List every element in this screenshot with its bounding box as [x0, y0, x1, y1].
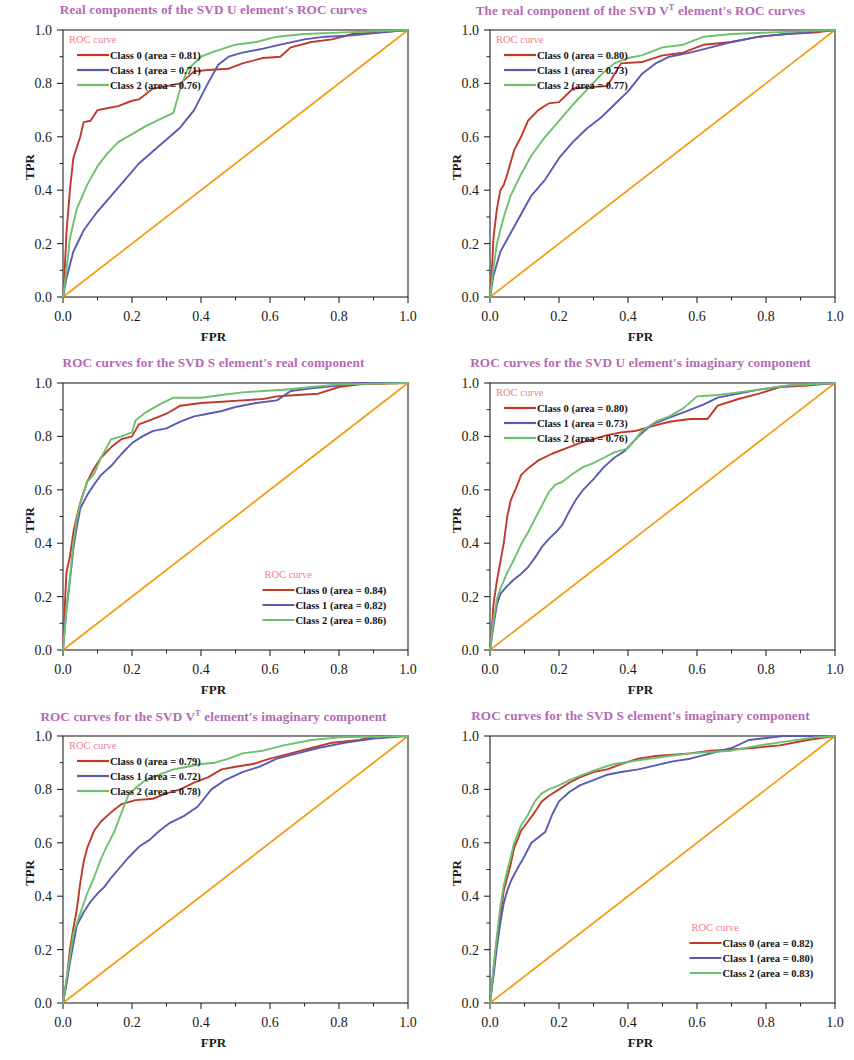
x-tick-label: 0.4 — [192, 1015, 210, 1030]
x-tick-label: 0.2 — [550, 1015, 568, 1030]
y-tick-label: 0.4 — [35, 889, 53, 904]
x-tick-label: 1.0 — [399, 662, 417, 677]
y-tick-label: 1.0 — [35, 729, 53, 744]
y-tick-label: 0.8 — [462, 429, 480, 444]
y-tick-label: 0.6 — [35, 483, 53, 498]
x-tick-label: 0.0 — [54, 1015, 72, 1030]
legend-label-class-1: Class 1 (area = 0.71) — [110, 65, 201, 77]
y-tick-label: 0.4 — [35, 536, 53, 551]
y-tick-label: 0.4 — [462, 889, 480, 904]
legend-label-class-1: Class 1 (area = 0.72) — [110, 771, 201, 783]
x-tick-label: 1.0 — [826, 309, 844, 324]
legend-label-class-2: Class 2 (area = 0.76) — [110, 80, 201, 92]
legend-label-class-0: Class 0 (area = 0.80) — [537, 50, 628, 62]
y-tick-label: 0.6 — [462, 130, 480, 145]
x-tick-label: 0.2 — [550, 662, 568, 677]
y-tick-label: 0.2 — [462, 590, 480, 605]
y-tick-label: 1.0 — [462, 729, 480, 744]
legend-title: ROC curve — [69, 34, 117, 45]
legend-label-class-0: Class 0 (area = 0.84) — [295, 585, 386, 597]
x-tick-label: 0.8 — [330, 662, 348, 677]
y-tick-label: 0.0 — [35, 996, 53, 1011]
x-tick-label: 0.6 — [688, 309, 706, 324]
y-axis-label: TPR — [22, 154, 38, 180]
x-axis-label: FPR — [0, 682, 427, 698]
x-tick-label: 1.0 — [826, 662, 844, 677]
x-axis-label: FPR — [427, 682, 854, 698]
y-tick-label: 0.2 — [35, 590, 53, 605]
roc-panel-svd-s-imag: ROC curves for the SVD S element's imagi… — [427, 706, 854, 1059]
legend-label-class-0: Class 0 (area = 0.80) — [537, 403, 628, 415]
x-tick-label: 0.2 — [123, 309, 141, 324]
x-tick-label: 0.2 — [550, 309, 568, 324]
x-tick-label: 0.8 — [757, 1015, 775, 1030]
plot-area-svd-vt-imag: 0.00.20.40.60.81.00.00.20.40.60.81.0ROC … — [0, 706, 427, 1059]
y-axis-label: TPR — [449, 154, 465, 180]
y-axis-label: TPR — [22, 507, 38, 533]
x-tick-label: 0.8 — [757, 309, 775, 324]
y-tick-label: 0.8 — [462, 76, 480, 91]
y-tick-label: 0.0 — [35, 643, 53, 658]
x-tick-label: 0.4 — [192, 662, 210, 677]
y-tick-label: 1.0 — [462, 376, 480, 391]
y-tick-label: 0.8 — [35, 782, 53, 797]
x-tick-label: 0.0 — [481, 309, 499, 324]
x-tick-label: 0.2 — [123, 1015, 141, 1030]
y-tick-label: 0.0 — [462, 290, 480, 305]
x-axis-label: FPR — [427, 1035, 854, 1051]
y-tick-label: 1.0 — [462, 23, 480, 38]
legend-title: ROC curve — [496, 34, 544, 45]
legend-title: ROC curve — [69, 740, 117, 751]
y-tick-label: 0.2 — [462, 237, 480, 252]
x-axis-label: FPR — [0, 1035, 427, 1051]
y-axis-label: TPR — [449, 860, 465, 886]
legend-label-class-1: Class 1 (area = 0.73) — [537, 418, 628, 430]
legend-title: ROC curve — [264, 569, 312, 580]
plot-area-svd-s-imag: 0.00.20.40.60.81.00.00.20.40.60.81.0ROC … — [427, 706, 854, 1059]
x-tick-label: 0.8 — [330, 1015, 348, 1030]
y-axis-label: TPR — [22, 860, 38, 886]
y-tick-label: 0.2 — [462, 943, 480, 958]
legend-label-class-0: Class 0 (area = 0.79) — [110, 756, 201, 768]
y-tick-label: 1.0 — [35, 376, 53, 391]
legend-label-class-1: Class 1 (area = 0.80) — [722, 953, 813, 965]
y-tick-label: 0.4 — [462, 183, 480, 198]
y-tick-label: 0.0 — [462, 996, 480, 1011]
x-tick-label: 0.0 — [481, 1015, 499, 1030]
y-tick-label: 0.6 — [35, 836, 53, 851]
y-tick-label: 0.8 — [35, 76, 53, 91]
roc-panel-svd-s-real: ROC curves for the SVD S element's real … — [0, 353, 427, 706]
x-tick-label: 0.2 — [123, 662, 141, 677]
legend-label-class-0: Class 0 (area = 0.82) — [722, 938, 813, 950]
plot-area-svd-vt-real: 0.00.20.40.60.81.00.00.20.40.60.81.0ROC … — [427, 0, 854, 353]
y-tick-label: 0.8 — [462, 782, 480, 797]
legend-label-class-1: Class 1 (area = 0.82) — [295, 600, 386, 612]
x-tick-label: 0.0 — [54, 309, 72, 324]
x-tick-label: 0.0 — [54, 662, 72, 677]
legend-title: ROC curve — [496, 387, 544, 398]
y-tick-label: 0.0 — [462, 643, 480, 658]
y-tick-label: 0.2 — [35, 237, 53, 252]
x-tick-label: 0.6 — [261, 309, 279, 324]
roc-panel-svd-vt-imag: ROC curves for the SVD VT element's imag… — [0, 706, 427, 1059]
roc-panel-svd-u-imag: ROC curves for the SVD U element's imagi… — [427, 353, 854, 706]
legend-label-class-0: Class 0 (area = 0.81) — [110, 50, 201, 62]
x-tick-label: 0.6 — [261, 662, 279, 677]
x-axis-label: FPR — [427, 329, 854, 345]
y-tick-label: 0.0 — [35, 290, 53, 305]
x-tick-label: 0.6 — [688, 1015, 706, 1030]
legend-title: ROC curve — [691, 922, 739, 933]
x-tick-label: 1.0 — [826, 1015, 844, 1030]
x-tick-label: 1.0 — [399, 1015, 417, 1030]
x-tick-label: 1.0 — [399, 309, 417, 324]
x-tick-label: 0.8 — [330, 309, 348, 324]
y-tick-label: 1.0 — [35, 23, 53, 38]
x-tick-label: 0.6 — [261, 1015, 279, 1030]
legend-label-class-1: Class 1 (area = 0.73) — [537, 65, 628, 77]
roc-panel-grid: Real components of the SVD U element's R… — [0, 0, 854, 1060]
x-tick-label: 0.0 — [481, 662, 499, 677]
y-axis-label: TPR — [449, 507, 465, 533]
roc-panel-svd-vt-real: The real component of the SVD VT element… — [427, 0, 854, 353]
y-tick-label: 0.6 — [462, 836, 480, 851]
x-axis-label: FPR — [0, 329, 427, 345]
